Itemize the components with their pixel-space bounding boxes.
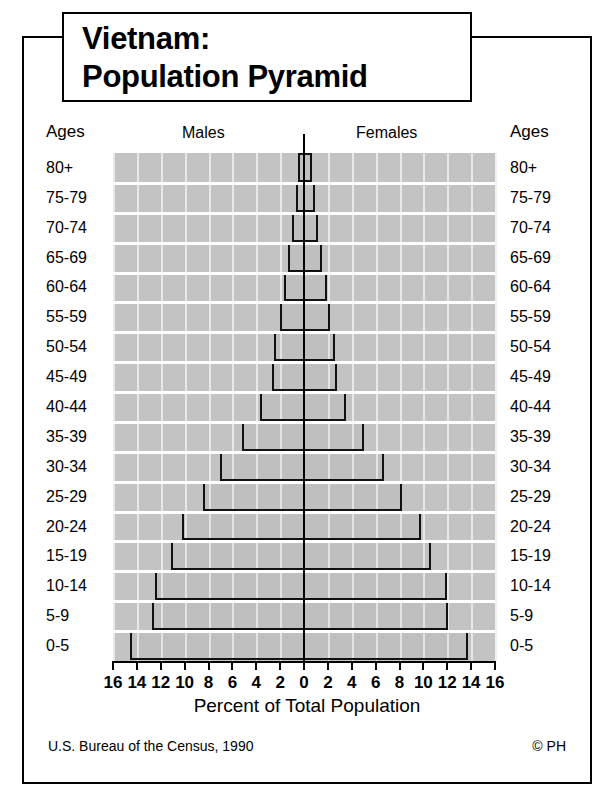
age-group-label-left: 70-74 [46,219,87,237]
x-axis-tick-label: 14 [462,673,481,693]
age-group-label-left: 55-59 [46,308,87,326]
male-bar [220,452,304,481]
age-group-label-right: 65-69 [510,249,551,267]
age-group-label-right: 60-64 [510,278,551,296]
age-group-label-left: 25-29 [46,488,87,506]
female-bar [304,153,312,182]
x-axis-tick-label: 6 [228,673,237,693]
age-group-label-left: 35-39 [46,428,87,446]
male-bar [171,541,304,570]
vertical-gridline [495,153,497,661]
male-bar [242,422,304,451]
x-axis-tick [399,661,401,670]
age-group-label-left: 50-54 [46,338,87,356]
age-group-label-left: 5-9 [46,607,69,625]
female-bar [304,243,322,272]
female-bar [304,452,384,481]
age-group-label-right: 20-24 [510,518,551,536]
poster-page: Vietnam: Population Pyramid Ages Males F… [0,0,614,802]
age-group-label-right: 55-59 [510,308,551,326]
male-bar [274,332,304,361]
age-group-label-right: 70-74 [510,219,551,237]
population-pyramid-chart: Ages Males Females Ages 1614121086420246… [22,110,592,730]
age-group-label-left: 20-24 [46,518,87,536]
x-axis-tick-label: 10 [175,673,194,693]
x-axis-tick-label: 12 [151,673,170,693]
female-bar [304,601,448,630]
x-axis-tick-label: 16 [104,673,123,693]
age-group-label-right: 45-49 [510,368,551,386]
age-group-label-left: 15-19 [46,547,87,565]
x-axis-tick [279,661,281,670]
female-bar [304,571,447,600]
title-line-1: Vietnam: [82,20,470,58]
x-axis-tick-label: 12 [438,673,457,693]
x-axis-tick [470,661,472,670]
x-axis-tick [136,661,138,670]
male-bar [272,362,304,391]
x-axis-tick-label: 2 [323,673,332,693]
x-axis-tick [494,661,496,670]
ages-header-right: Ages [510,122,549,142]
age-group-label-left: 45-49 [46,368,87,386]
females-legend-label: Females [356,124,417,142]
x-axis-tick-label: 4 [347,673,356,693]
age-group-label-left: 10-14 [46,577,87,595]
female-bar [304,482,402,511]
x-axis-tick [351,661,353,670]
age-group-label-right: 5-9 [510,607,533,625]
males-legend-label: Males [182,124,225,142]
x-axis-tick [160,661,162,670]
male-bar [182,512,304,541]
female-bar [304,631,468,660]
age-group-label-right: 40-44 [510,398,551,416]
age-group-label-right: 30-34 [510,458,551,476]
male-bar [280,302,304,331]
female-bar [304,332,335,361]
male-bar [155,571,304,600]
title-box: Vietnam: Population Pyramid [62,12,472,102]
x-axis-tick [375,661,377,670]
male-bar [288,243,304,272]
x-axis-tick-label: 4 [252,673,261,693]
male-bar [203,482,304,511]
age-group-label-left: 80+ [46,159,73,177]
age-group-label-right: 35-39 [510,428,551,446]
age-group-label-left: 65-69 [46,249,87,267]
age-group-label-right: 80+ [510,159,537,177]
male-bar [130,631,304,660]
ages-header-left: Ages [46,122,85,142]
age-group-label-left: 40-44 [46,398,87,416]
age-group-label-right: 50-54 [510,338,551,356]
x-axis-tick [255,661,257,670]
age-group-label-right: 0-5 [510,637,533,655]
female-bar [304,302,330,331]
female-bar [304,541,431,570]
x-axis-tick-label: 10 [414,673,433,693]
x-axis-tick [184,661,186,670]
male-bar [260,392,304,421]
female-bar [304,213,318,242]
x-axis-tick-label: 0 [299,673,308,693]
x-axis-title: Percent of Total Population [22,695,592,717]
copyright-note: © PH [532,738,566,754]
title-line-2: Population Pyramid [82,58,470,96]
x-axis-tick-label: 14 [127,673,146,693]
source-note: U.S. Bureau of the Census, 1990 [48,738,253,754]
female-bar [304,392,346,421]
age-group-label-right: 25-29 [510,488,551,506]
age-group-label-left: 60-64 [46,278,87,296]
female-bar [304,273,327,302]
x-axis-tick-label: 8 [395,673,404,693]
male-bar [152,601,304,630]
x-axis-tick [327,661,329,670]
age-group-label-left: 75-79 [46,189,87,207]
x-axis-tick [208,661,210,670]
x-axis-tick [112,661,114,670]
x-axis-tick-label: 8 [204,673,213,693]
age-group-label-left: 30-34 [46,458,87,476]
x-axis-tick [231,661,233,670]
x-axis-tick-label: 6 [371,673,380,693]
age-group-label-right: 10-14 [510,577,551,595]
female-bar [304,512,421,541]
